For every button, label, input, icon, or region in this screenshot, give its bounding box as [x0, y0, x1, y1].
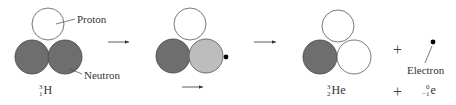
proton-circle: [174, 8, 206, 40]
decaying-nucleus: [156, 8, 228, 73]
proton-circle: [32, 8, 64, 40]
proton-circle: [322, 10, 354, 42]
plus-sign: +: [393, 84, 402, 100]
tritium-nucleus: [15, 8, 82, 74]
neutron-label: Neutron: [84, 70, 120, 81]
electron-leader-line: [425, 46, 432, 63]
electron-label: Electron: [407, 65, 444, 76]
helium3-symbol: 32He: [327, 84, 346, 98]
decay-diagram: [0, 0, 456, 105]
neutron-circle: [15, 40, 49, 74]
helium-nucleus: [303, 10, 371, 74]
neutron-circle: [156, 39, 190, 73]
neutron-circle: [303, 40, 337, 74]
proton-label: Proton: [77, 14, 106, 25]
proton-circle: [337, 40, 371, 74]
electron-dot: [224, 55, 229, 60]
neutron-circle: [48, 40, 82, 74]
electron-dot: [431, 40, 436, 45]
tritium-symbol: 31H: [39, 84, 52, 98]
electron-symbol: 0−1e: [422, 84, 436, 98]
decaying-neutron-circle: [189, 39, 223, 73]
plus-sign: +: [393, 42, 402, 58]
